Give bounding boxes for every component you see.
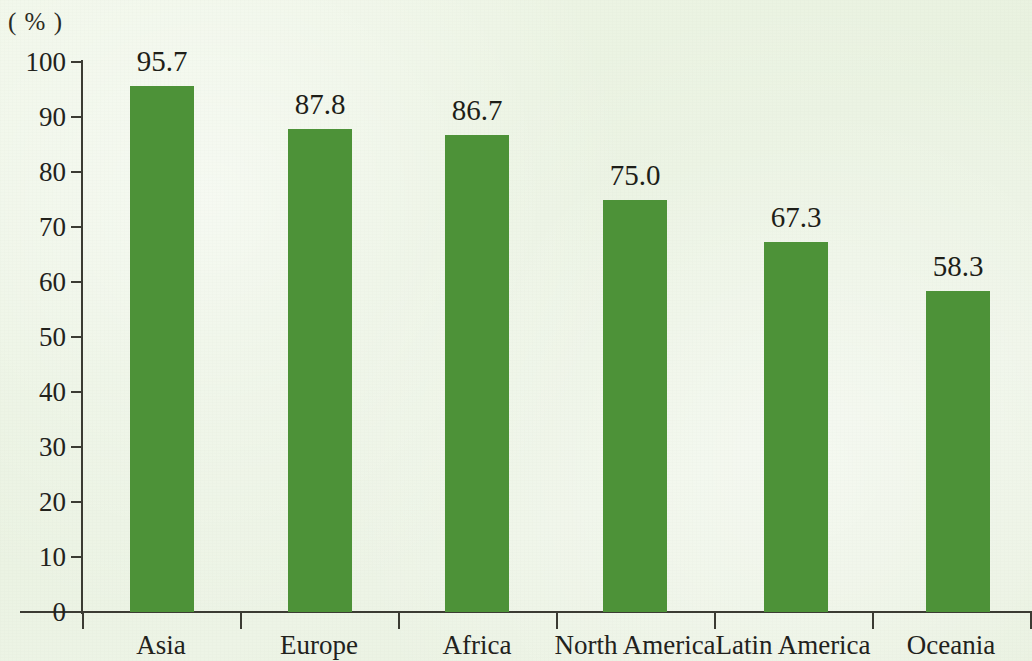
y-tick-label-80: 80 <box>4 157 66 188</box>
category-label-north-america: North America <box>554 630 715 661</box>
y-axis-unit-label: ( % ) <box>8 8 63 36</box>
bar-north-america <box>603 200 667 613</box>
category-label-oceania: Oceania <box>907 630 995 661</box>
bar-europe <box>288 129 352 612</box>
x-tick-4 <box>714 612 716 629</box>
category-label-latin-america: Latin America <box>715 630 870 661</box>
bar-asia <box>130 86 194 612</box>
x-tick-1 <box>240 612 242 629</box>
y-tick-label-20: 20 <box>4 487 66 518</box>
y-tick-20 <box>71 501 82 503</box>
y-tick-80 <box>71 171 82 173</box>
y-tick-0 <box>71 611 82 613</box>
x-tick-0 <box>82 612 84 629</box>
bar-africa <box>445 135 509 612</box>
bar-value-label-europe: 87.8 <box>295 88 346 121</box>
y-tick-70 <box>71 226 82 228</box>
bar-oceania <box>926 291 990 612</box>
bar-value-label-latin-america: 67.3 <box>771 201 822 234</box>
y-tick-10 <box>71 556 82 558</box>
y-tick-label-0: 0 <box>4 597 66 628</box>
bar-value-label-asia: 95.7 <box>137 45 188 78</box>
bar-value-label-north-america: 75.0 <box>610 159 661 192</box>
category-label-europe: Europe <box>280 630 358 661</box>
y-tick-label-10: 10 <box>4 542 66 573</box>
y-tick-60 <box>71 281 82 283</box>
y-tick-label-60: 60 <box>4 267 66 298</box>
y-tick-label-70: 70 <box>4 212 66 243</box>
bar-chart: ( % ) 0102030405060708090100 95.787.886.… <box>0 0 1032 661</box>
category-label-africa: Africa <box>443 630 512 661</box>
y-tick-50 <box>71 336 82 338</box>
y-tick-30 <box>71 446 82 448</box>
bar-latin-america <box>764 242 828 612</box>
x-tick-2 <box>398 612 400 629</box>
x-tick-5 <box>872 612 874 629</box>
y-tick-40 <box>71 391 82 393</box>
y-tick-label-90: 90 <box>4 102 66 133</box>
y-tick-90 <box>71 116 82 118</box>
y-tick-label-30: 30 <box>4 432 66 463</box>
y-tick-100 <box>71 61 82 63</box>
bar-value-label-oceania: 58.3 <box>933 250 984 283</box>
x-tick-3 <box>556 612 558 629</box>
bar-value-label-africa: 86.7 <box>452 94 503 127</box>
y-tick-label-40: 40 <box>4 377 66 408</box>
y-tick-label-50: 50 <box>4 322 66 353</box>
category-label-asia: Asia <box>136 630 186 661</box>
y-tick-label-100: 100 <box>4 47 66 78</box>
